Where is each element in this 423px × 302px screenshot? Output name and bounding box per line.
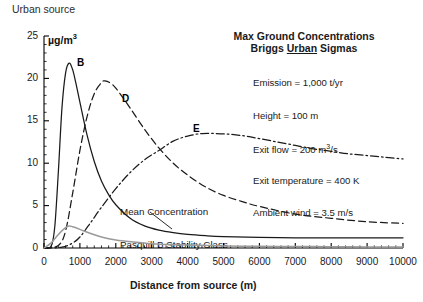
curve-label-e: E	[193, 123, 200, 134]
x-tick-label: 10000	[383, 256, 423, 267]
y-tick-label: 5	[14, 199, 38, 210]
annotation-leader-line	[150, 212, 172, 229]
y-tick-label: 15	[14, 114, 38, 125]
x-tick-label: 8000	[311, 256, 351, 267]
x-tick-label: 0	[24, 256, 64, 267]
x-tick-label: 4000	[168, 256, 208, 267]
x-tick-label: 6000	[239, 256, 279, 267]
series-curve-d	[44, 81, 403, 248]
x-tick-label: 9000	[347, 256, 387, 267]
series-curve-e	[44, 133, 403, 248]
x-tick-label: 7000	[275, 256, 315, 267]
y-tick-label: 10	[14, 157, 38, 168]
x-tick-label: 2000	[96, 256, 136, 267]
curve-label-b: B	[77, 57, 84, 68]
x-tick-label: 3000	[132, 256, 172, 267]
y-tick-label: 20	[14, 72, 38, 83]
curve-label-d: D	[122, 93, 129, 104]
x-tick-label: 5000	[204, 256, 244, 267]
y-tick-label: 0	[14, 242, 38, 253]
y-tick-label: 25	[14, 30, 38, 41]
x-tick-label: 1000	[60, 256, 100, 267]
chart-figure: Urban source µg/m3 Max Ground Concentrat…	[0, 0, 423, 302]
